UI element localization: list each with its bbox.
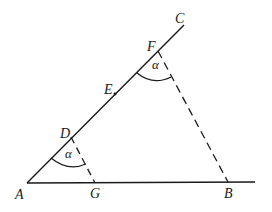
label-g: G: [90, 186, 100, 201]
label-d: D: [59, 126, 70, 141]
label-c: C: [175, 11, 185, 26]
geometry-diagram: A G B D E F C α α: [0, 0, 272, 212]
line-ab: [27, 182, 255, 183]
line-ac: [27, 25, 184, 183]
dashed-line-fb: [158, 51, 228, 182]
angle-label-f: α: [152, 57, 160, 72]
dashed-line-dg: [71, 137, 95, 183]
label-e: E: [103, 82, 113, 97]
label-f: F: [146, 39, 156, 54]
angle-label-d: α: [65, 146, 73, 161]
label-a: A: [14, 187, 24, 202]
label-b: B: [224, 186, 233, 201]
point-e-marker: [114, 93, 117, 96]
angle-arc-f: [137, 73, 171, 81]
